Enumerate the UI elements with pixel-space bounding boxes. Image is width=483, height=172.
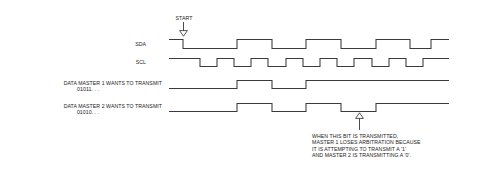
waveform-scl bbox=[169, 59, 449, 67]
waveform-master2-data bbox=[169, 104, 449, 112]
waveform-canvas bbox=[0, 0, 483, 172]
waveform-sda bbox=[169, 40, 449, 49]
waveform-master1-data bbox=[169, 81, 449, 89]
arbitration-up-arrow-icon bbox=[356, 113, 364, 119]
i2c-arbitration-timing-diagram: START SDA SCL DATA MASTER 1 WANTS TO TRA… bbox=[0, 0, 483, 172]
start-down-arrow-icon bbox=[180, 31, 188, 37]
